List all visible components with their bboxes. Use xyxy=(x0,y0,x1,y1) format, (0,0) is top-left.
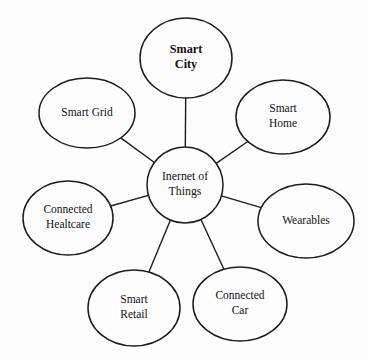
node-internet-of-things[interactable]: Inernet ofThings xyxy=(147,147,223,223)
node-label-smart-retail: Smart xyxy=(120,293,148,305)
node-label-smart-grid: Smart Grid xyxy=(61,106,113,118)
node-smart-home[interactable]: SmartHome xyxy=(236,80,330,154)
node-label-internet-of-things: Inernet of xyxy=(162,169,208,183)
node-label-connected-healtcare: Healtcare xyxy=(46,218,90,230)
edge-center-to-connected-healtcare xyxy=(111,195,149,206)
edge-center-to-connected-car xyxy=(201,219,224,269)
edge-center-to-smart-grid xyxy=(121,138,155,163)
node-label-smart-city: City xyxy=(175,57,197,71)
edge-center-to-smart-retail xyxy=(149,220,171,272)
edge-center-to-smart-home xyxy=(216,141,248,163)
node-label-connected-car: Car xyxy=(232,304,249,316)
iot-hub-diagram: SmartCitySmartHomeWearablesConnectedCarS… xyxy=(0,0,368,360)
node-label-connected-car: Connected xyxy=(215,289,264,301)
node-connected-healtcare[interactable]: ConnectedHealtcare xyxy=(23,181,113,255)
node-label-wearables: Wearables xyxy=(282,214,330,226)
node-label-smart-city: Smart xyxy=(170,42,203,56)
edge-center-to-wearables xyxy=(221,196,261,208)
node-label-smart-home: Home xyxy=(269,117,297,129)
node-label-internet-of-things: Things xyxy=(169,184,202,198)
node-label-smart-home: Smart xyxy=(269,102,297,114)
node-group: SmartCitySmartHomeWearablesConnectedCarS… xyxy=(23,18,354,346)
node-label-smart-retail: Retail xyxy=(120,308,147,320)
node-wearables[interactable]: Wearables xyxy=(258,184,354,258)
node-label-connected-healtcare: Connected xyxy=(43,203,92,215)
node-connected-car[interactable]: ConnectedCar xyxy=(193,267,287,341)
node-smart-grid[interactable]: Smart Grid xyxy=(39,78,135,148)
node-smart-city[interactable]: SmartCity xyxy=(140,18,232,98)
node-smart-retail[interactable]: SmartRetail xyxy=(88,270,180,346)
diagram-canvas: SmartCitySmartHomeWearablesConnectedCarS… xyxy=(0,0,368,360)
